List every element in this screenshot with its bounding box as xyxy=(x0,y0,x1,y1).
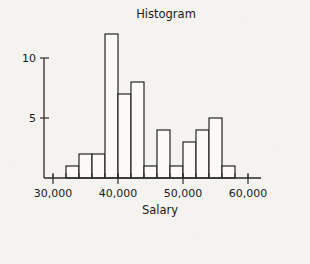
y-axis-tick-label: 10 xyxy=(22,52,36,65)
histogram-bar xyxy=(222,166,235,178)
histogram-bar xyxy=(92,154,105,178)
histogram-bar xyxy=(66,166,79,178)
x-axis-tick-label: 50,000 xyxy=(164,187,203,200)
chart-title: Histogram xyxy=(136,7,196,21)
histogram-bar xyxy=(157,130,170,178)
histogram-figure: 51030,00040,00050,00060,000 Histogram Sa… xyxy=(0,0,310,264)
x-axis-tick-label: 60,000 xyxy=(229,187,268,200)
y-axis-tick-label: 5 xyxy=(29,112,36,125)
histogram-bar xyxy=(170,166,183,178)
histogram-bar xyxy=(196,130,209,178)
histogram-bar xyxy=(105,34,118,178)
x-axis-tick-label: 40,000 xyxy=(99,187,138,200)
histogram-bar xyxy=(131,82,144,178)
histogram-bar xyxy=(209,118,222,178)
histogram-bar xyxy=(144,166,157,178)
x-axis-tick-label: 30,000 xyxy=(34,187,73,200)
histogram-bar xyxy=(118,94,131,178)
histogram-chart: 51030,00040,00050,00060,000 Histogram Sa… xyxy=(0,0,310,264)
histogram-bar xyxy=(183,142,196,178)
bars-group xyxy=(66,34,235,178)
axes-group xyxy=(40,58,261,184)
histogram-bar xyxy=(79,154,92,178)
x-axis-title: Salary xyxy=(142,203,178,217)
